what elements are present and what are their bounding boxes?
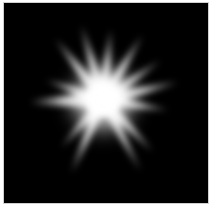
starburst-image (3, 2, 209, 204)
glow-center (87, 84, 119, 116)
starburst-graphic (4, 3, 208, 203)
